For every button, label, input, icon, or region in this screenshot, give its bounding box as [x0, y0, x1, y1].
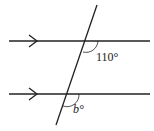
angle-b-label: b° — [73, 102, 84, 117]
diagram: 110° b° — [0, 0, 154, 131]
angle-110-label: 110° — [96, 50, 118, 65]
